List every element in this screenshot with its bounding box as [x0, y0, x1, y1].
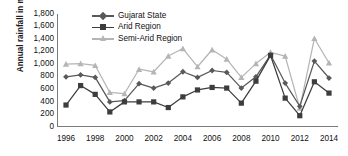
data-point-marker — [209, 68, 215, 74]
data-point-marker — [195, 87, 200, 92]
y-tick-label: 600 — [20, 85, 54, 93]
series-line — [66, 38, 329, 108]
data-point-marker — [297, 103, 303, 109]
data-point-marker — [166, 105, 171, 110]
series-arid-region — [63, 53, 331, 118]
data-point-marker — [107, 109, 112, 114]
legend-item-arid-region[interactable]: Arid Region — [92, 21, 182, 32]
data-point-marker — [283, 96, 288, 101]
x-axis-tick-labels: 1996199820002002200420062008201020122014 — [0, 131, 348, 145]
legend-label: Arid Region — [118, 21, 161, 32]
data-point-marker — [195, 75, 201, 81]
data-point-marker — [312, 79, 317, 84]
y-tick-label: 1,800 — [20, 10, 54, 18]
data-point-marker — [151, 99, 156, 104]
data-point-marker — [151, 85, 157, 91]
data-point-marker — [165, 53, 171, 59]
data-point-marker — [122, 99, 127, 104]
data-point-marker — [78, 72, 84, 78]
y-tick-label: 0 — [20, 123, 54, 131]
y-tick-label: 1,000 — [20, 60, 54, 68]
legend-item-gujarat-state[interactable]: Gujarat State — [92, 10, 182, 21]
data-point-marker — [209, 47, 215, 53]
chart-legend: Gujarat StateArid RegionSemi-Arid Region — [92, 10, 182, 44]
legend-square-icon — [92, 23, 114, 32]
data-point-marker — [63, 102, 68, 107]
data-point-marker — [224, 85, 229, 90]
data-point-marker — [253, 79, 258, 84]
data-point-marker — [107, 99, 113, 105]
data-point-marker — [78, 83, 83, 88]
legend-triangle-icon — [92, 34, 114, 43]
y-tick-label: 400 — [20, 98, 54, 106]
data-point-marker — [180, 94, 185, 99]
data-point-marker — [282, 80, 288, 86]
data-point-marker — [224, 56, 230, 62]
y-tick-label: 1,600 — [20, 22, 54, 30]
data-point-marker — [326, 91, 331, 96]
data-point-marker — [268, 53, 273, 58]
data-point-marker — [93, 92, 98, 97]
data-point-marker — [136, 99, 141, 104]
data-point-marker — [297, 113, 302, 118]
data-point-marker — [210, 85, 215, 90]
rainfall-line-chart: Annual rainfall in mm 1,8001,6001,4001,2… — [0, 0, 348, 156]
data-point-marker — [63, 74, 69, 80]
data-point-marker — [180, 45, 186, 51]
legend-diamond-icon — [92, 11, 114, 20]
y-tick-label: 200 — [20, 110, 54, 118]
series-semi-arid-region — [63, 35, 332, 110]
data-point-marker — [326, 60, 332, 66]
legend-item-semi-arid-region[interactable]: Semi-Arid Region — [92, 33, 182, 44]
y-tick-label: 1,400 — [20, 35, 54, 43]
data-point-marker — [92, 75, 98, 81]
x-tick-label: 2014 — [312, 134, 346, 143]
data-point-marker — [239, 101, 244, 106]
legend-label: Gujarat State — [118, 10, 166, 21]
y-tick-label: 1,200 — [20, 47, 54, 55]
legend-label: Semi-Arid Region — [118, 33, 182, 44]
series-line — [66, 55, 329, 106]
data-point-marker — [311, 35, 317, 41]
y-tick-label: 800 — [20, 72, 54, 80]
